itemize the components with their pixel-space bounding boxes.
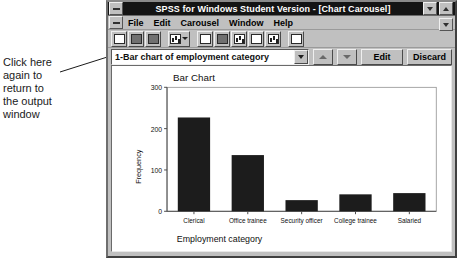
print-icon[interactable] <box>145 31 161 47</box>
x-tick-label: College trainee <box>334 217 377 225</box>
system-menu-icon[interactable] <box>109 2 123 15</box>
x-tick-label: Salaried <box>398 217 422 224</box>
y-tick-label: 200 <box>151 126 163 133</box>
spss-chart-carousel-window: SPSS for Windows Student Version - [Char… <box>106 0 457 258</box>
y-tick-label: 100 <box>151 167 163 174</box>
chart-client-area: Bar Chart0100200300FrequencyClericalOffi… <box>111 65 452 252</box>
restore-document-button[interactable] <box>439 18 453 31</box>
chart-selector-combobox[interactable]: 1-Bar chart of employment category <box>111 49 309 65</box>
y-tick-label: 300 <box>151 84 163 91</box>
bar <box>339 194 371 211</box>
go-to-chart-icon[interactable] <box>214 31 230 47</box>
menu-item-file[interactable]: File <box>128 18 144 28</box>
x-tick-label: Office trainee <box>229 217 267 224</box>
chart-gallery-dropdown-icon[interactable] <box>168 31 190 47</box>
triangle-up-icon <box>319 55 327 59</box>
window-title-bar: SPSS for Windows Student Version - [Char… <box>108 2 455 16</box>
next-chart-button[interactable] <box>337 49 357 65</box>
y-tick-label: 0 <box>158 208 162 215</box>
go-to-data-icon[interactable] <box>231 31 247 47</box>
bar <box>285 200 317 211</box>
bar <box>232 155 264 211</box>
x-tick-label: Clerical <box>183 217 204 224</box>
bar <box>393 193 425 211</box>
previous-chart-button[interactable] <box>313 49 333 65</box>
discard-button[interactable]: Discard <box>407 49 452 65</box>
designate-window-icon[interactable] <box>197 31 213 47</box>
bar <box>178 117 210 211</box>
save-file-icon[interactable] <box>128 31 144 47</box>
chart-selector-value: 1-Bar chart of employment category <box>115 52 269 62</box>
x-axis-label: Employment category <box>177 234 263 244</box>
variables-icon[interactable] <box>248 31 264 47</box>
chart-title: Bar Chart <box>173 73 215 84</box>
menu-item-help[interactable]: Help <box>273 18 293 28</box>
maximize-button[interactable] <box>439 2 453 15</box>
chevron-down-icon[interactable] <box>294 50 308 64</box>
carousel-selector-bar: 1-Bar chart of employment category Edit … <box>108 48 455 66</box>
menu-item-edit[interactable]: Edit <box>154 18 171 28</box>
y-axis-label: Frequency <box>134 149 143 184</box>
bar-chart: Bar Chart0100200300FrequencyClericalOffi… <box>112 66 451 251</box>
window-title: SPSS for Windows Student Version - [Char… <box>124 4 422 14</box>
triangle-down-icon <box>343 55 351 59</box>
x-tick-label: Security officer <box>281 217 323 225</box>
edit-button[interactable]: Edit <box>361 49 403 65</box>
run-chart-icon[interactable] <box>265 31 281 47</box>
open-file-icon[interactable] <box>111 31 127 47</box>
info-icon[interactable] <box>288 31 304 47</box>
menu-item-window[interactable]: Window <box>229 18 263 28</box>
toolbar <box>108 30 455 48</box>
minimize-button[interactable] <box>423 2 437 15</box>
menu-item-carousel[interactable]: Carousel <box>181 18 220 28</box>
menu-bar: File Edit Carousel Window Help <box>108 16 455 30</box>
document-system-menu-icon[interactable] <box>109 16 123 29</box>
